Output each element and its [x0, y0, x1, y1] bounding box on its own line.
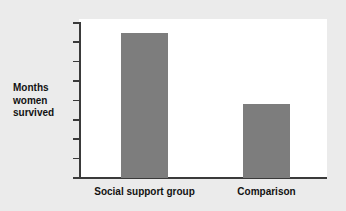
y-axis-title: Months women survived [13, 82, 75, 120]
bar-social-support-group [121, 33, 168, 179]
bar-chart: Months women survived 40 35 30 25 20 15 [0, 0, 346, 211]
x-label-comparison: Comparison [222, 185, 311, 198]
bar-comparison [243, 104, 290, 178]
x-label-social-support-group: Social support group [84, 185, 205, 198]
y-axis-line [79, 22, 81, 179]
